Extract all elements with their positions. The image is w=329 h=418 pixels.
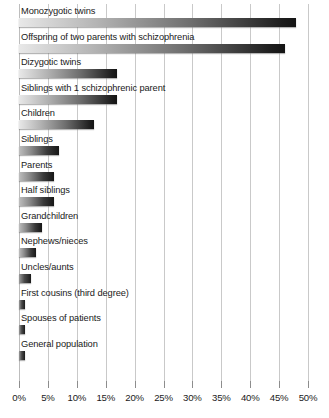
bar-rows: Monozygotic twinsOffspring of two parent… (19, 4, 308, 381)
bar (19, 351, 25, 360)
x-tick-label: 0% (12, 392, 25, 403)
bar (19, 172, 54, 181)
bar-row: Siblings with 1 schizophrenic parent (19, 81, 308, 107)
schizophrenia-risk-bar-chart: Monozygotic twinsOffspring of two parent… (0, 0, 329, 418)
bar-row: Grandchildren (19, 209, 308, 235)
x-tick (250, 381, 251, 388)
bar-category-label: Parents (21, 159, 52, 171)
bar-category-label: Siblings (21, 133, 53, 145)
bar (19, 146, 59, 155)
x-axis-ticks (19, 381, 308, 389)
x-tick-label: 45% (270, 392, 289, 403)
bar (19, 325, 25, 334)
x-tick (221, 381, 222, 388)
bar (19, 223, 42, 232)
x-tick (77, 381, 78, 388)
x-tick-label: 40% (241, 392, 260, 403)
bar-row: Spouses of patients (19, 311, 308, 337)
bar-category-label: Uncles/aunts (21, 261, 74, 273)
bar (19, 18, 296, 27)
bar (19, 120, 94, 129)
gridline-50pct (308, 4, 309, 381)
x-tick-label: 10% (67, 392, 86, 403)
bar-category-label: Offspring of two parents with schizophre… (21, 31, 194, 43)
bar-category-label: Spouses of patients (21, 312, 101, 324)
x-tick-label: 30% (183, 392, 202, 403)
bar-row: General population (19, 337, 308, 363)
bar-category-label: General population (21, 338, 98, 350)
bar (19, 95, 117, 104)
x-tick (164, 381, 165, 388)
bar (19, 274, 31, 283)
x-tick (192, 381, 193, 388)
bar-category-label: Monozygotic twins (21, 5, 95, 17)
x-tick (135, 381, 136, 388)
bar-category-label: Siblings with 1 schizophrenic parent (21, 82, 165, 94)
bar-row: Siblings (19, 132, 308, 158)
x-tick-label: 25% (154, 392, 173, 403)
x-tick (279, 381, 280, 388)
plot-area: Monozygotic twinsOffspring of two parent… (19, 4, 308, 381)
bar-row: First cousins (third degree) (19, 286, 308, 312)
bar-row: Half siblings (19, 183, 308, 209)
x-axis-tick-labels: 0%5%10%15%20%25%30%35%40%45%50% (0, 392, 329, 410)
bar (19, 44, 285, 53)
bar-row: Dizygotic twins (19, 55, 308, 81)
x-tick-label: 50% (299, 392, 318, 403)
x-tick (48, 381, 49, 388)
bar-category-label: Grandchildren (21, 210, 78, 222)
bar-category-label: Half siblings (21, 184, 70, 196)
bar-row: Offspring of two parents with schizophre… (19, 30, 308, 56)
bar-row: Children (19, 106, 308, 132)
bar-row: Parents (19, 158, 308, 184)
bar-row: Nephews/nieces (19, 234, 308, 260)
x-tick-label: 15% (96, 392, 115, 403)
bar-category-label: Dizygotic twins (21, 56, 81, 68)
bar-category-label: First cousins (third degree) (21, 287, 129, 299)
bar (19, 300, 25, 309)
bar-row: Uncles/aunts (19, 260, 308, 286)
bar-category-label: Nephews/nieces (21, 235, 88, 247)
bar (19, 248, 36, 257)
x-tick (308, 381, 309, 388)
bar (19, 197, 54, 206)
x-tick-label: 20% (125, 392, 144, 403)
x-tick (19, 381, 20, 388)
x-tick-label: 35% (212, 392, 231, 403)
bar-row: Monozygotic twins (19, 4, 308, 30)
x-tick-label: 5% (41, 392, 54, 403)
bar (19, 69, 117, 78)
x-tick (106, 381, 107, 388)
bar-category-label: Children (21, 107, 55, 119)
